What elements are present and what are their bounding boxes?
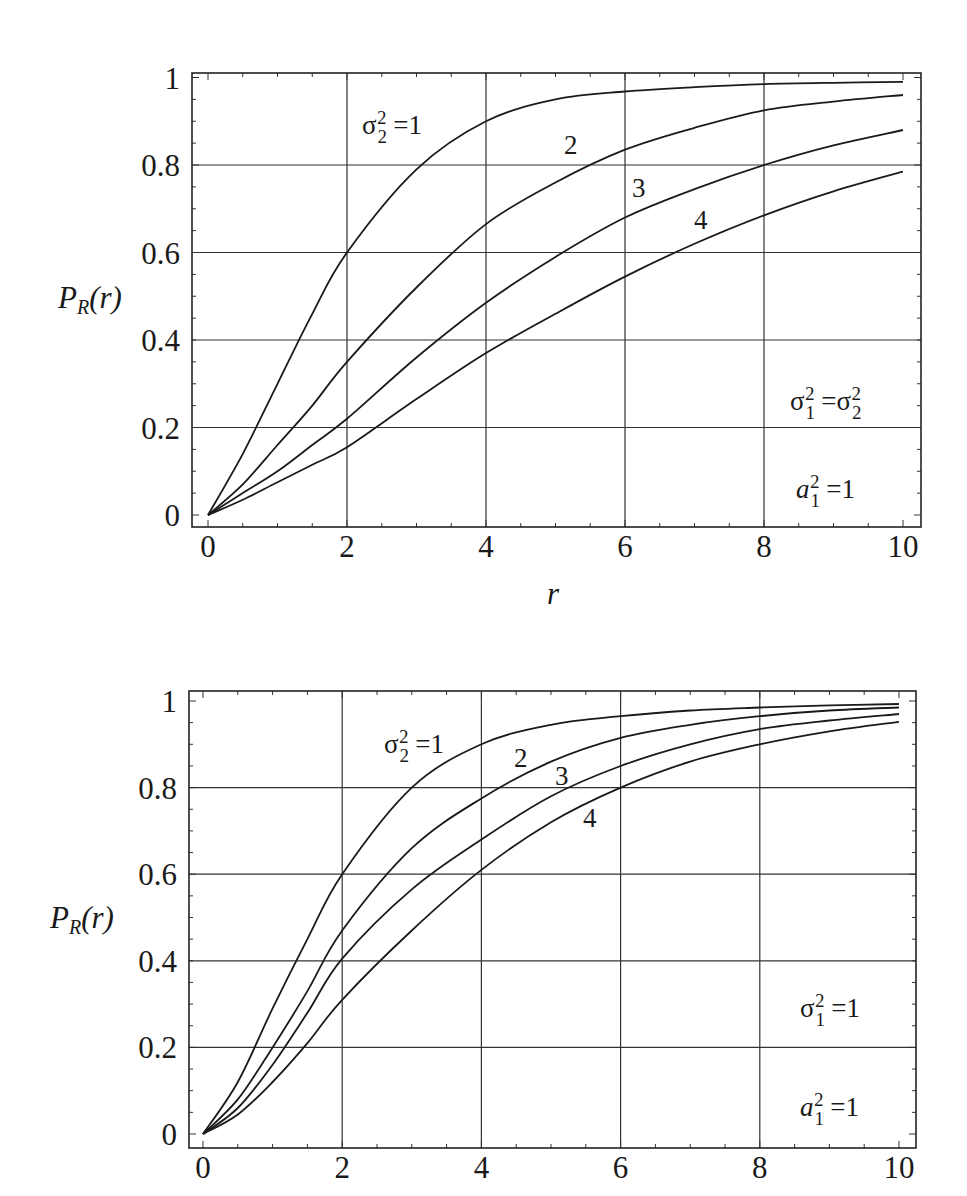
x-tick-labels: 0246810 — [200, 529, 918, 564]
y-tick-label: 0.4 — [138, 944, 177, 979]
y-tick-label: 0 — [162, 1117, 178, 1152]
curve-label-3: 3 — [632, 173, 646, 203]
curve-label-sigma2-1: σ22 =1 — [384, 726, 444, 766]
annotation-sigma1-eq-1: σ12 =1 — [800, 990, 860, 1030]
x-tick-label: 2 — [334, 1150, 350, 1185]
curve-label-2: 2 — [514, 743, 528, 773]
annotation-sigma1-eq-sigma2: σ12 =σ22 — [790, 383, 862, 423]
x-axis-label: r — [547, 576, 560, 611]
x-tick-label: 0 — [200, 529, 216, 564]
curve-label-sigma2-1: σ22 =1 — [362, 107, 422, 147]
curves — [208, 82, 903, 515]
y-tick-label: 1 — [162, 684, 178, 719]
plot-frame — [189, 691, 916, 1148]
x-tick-label: 6 — [617, 529, 633, 564]
curve-label-3: 3 — [555, 761, 569, 791]
curve-series-2 — [208, 95, 903, 515]
annotation-a1-eq-1: a12 =1 — [800, 1089, 859, 1129]
minor-ticks — [192, 73, 921, 527]
x-tick-label: 10 — [888, 529, 919, 564]
x-tick-label: 8 — [756, 529, 772, 564]
curve-label-4: 4 — [694, 205, 708, 235]
x-tick-label: 8 — [752, 1150, 768, 1185]
y-tick-label: 0.2 — [138, 1030, 177, 1065]
x-tick-label: 10 — [884, 1150, 915, 1185]
minor-ticks — [189, 691, 916, 1148]
y-tick-label: 0.6 — [141, 236, 180, 271]
y-tick-label: 0 — [165, 498, 181, 533]
curve-series-4 — [208, 172, 903, 515]
chart-bottom: 00.20.40.60.81 0246810 PR(r) σ22 =1 2 3 … — [49, 684, 916, 1185]
x-tick-label: 6 — [613, 1150, 629, 1185]
y-tick-label: 0.8 — [138, 771, 177, 806]
curve-series-2 — [203, 708, 899, 1135]
x-tick-label: 0 — [195, 1150, 211, 1185]
x-tick-label: 2 — [339, 529, 355, 564]
plot-frame — [192, 73, 921, 527]
y-axis-label: PR(r) — [57, 280, 122, 318]
curves — [203, 704, 899, 1134]
gridlines — [192, 73, 921, 527]
y-tick-labels: 00.20.40.60.81 — [138, 684, 177, 1152]
curve-series-1 — [208, 82, 903, 515]
curve-series-1 — [203, 704, 899, 1134]
y-tick-label: 0.6 — [138, 857, 177, 892]
y-tick-labels: 00.20.40.60.81 — [141, 61, 180, 534]
curve-series-4 — [203, 722, 899, 1134]
y-tick-label: 0.4 — [141, 323, 180, 358]
curve-label-4: 4 — [583, 803, 597, 833]
y-tick-label: 1 — [165, 61, 181, 96]
x-tick-label: 4 — [478, 529, 494, 564]
y-axis-label: PR(r) — [49, 900, 114, 938]
x-tick-label: 4 — [474, 1150, 490, 1185]
curve-series-3 — [203, 714, 899, 1134]
x-tick-labels: 0246810 — [195, 1150, 914, 1185]
y-tick-label: 0.8 — [141, 148, 180, 183]
curve-series-3 — [208, 130, 903, 515]
gridlines — [189, 691, 916, 1148]
curve-label-2: 2 — [564, 130, 578, 160]
annotation-a1-eq-1: a12 =1 — [796, 471, 855, 511]
y-tick-label: 0.2 — [141, 411, 180, 446]
chart-top: 00.20.40.60.81 0246810 PR(r) r σ22 =1 2 … — [57, 61, 921, 612]
